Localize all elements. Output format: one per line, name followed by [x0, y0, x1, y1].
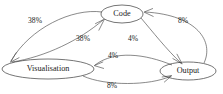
node-visualisation-label: Visualisation [27, 64, 70, 73]
edge-visualisation-to-code[interactable]: 38% [12, 19, 104, 62]
directed-graph-svg: 38% 38% 4% 8% 4% 8% [0, 0, 223, 94]
node-output[interactable]: Output [160, 62, 216, 80]
edge-output-to-code[interactable]: 8% [144, 9, 207, 63]
node-output-label: Output [177, 66, 200, 75]
graph-diagram-canvas: 38% 38% 4% 8% 4% 8% [0, 0, 223, 94]
edge-label-visualisation-to-code: 38% [76, 34, 91, 43]
edge-visualisation-to-output-path [83, 76, 171, 84]
edge-label-code-to-visualisation: 38% [28, 16, 43, 25]
node-visualisation[interactable]: Visualisation [2, 59, 94, 79]
edge-output-to-visualisation-arrowhead [94, 62, 103, 68]
edge-code-to-output-path [141, 18, 181, 63]
node-code[interactable]: Code [101, 5, 143, 23]
edge-visualisation-to-output[interactable]: 8% [83, 76, 172, 90]
edge-output-to-visualisation-path [95, 55, 172, 65]
node-code-label: Code [113, 9, 131, 18]
edge-output-to-visualisation[interactable]: 4% [94, 51, 172, 69]
edge-label-code-to-output: 4% [128, 34, 139, 43]
edge-label-output-to-code: 8% [178, 16, 189, 25]
edge-label-visualisation-to-output: 8% [107, 81, 118, 90]
edge-label-output-to-visualisation: 4% [108, 51, 119, 60]
edge-code-to-output[interactable]: 4% [128, 18, 182, 64]
edge-output-to-code-path [145, 12, 207, 63]
